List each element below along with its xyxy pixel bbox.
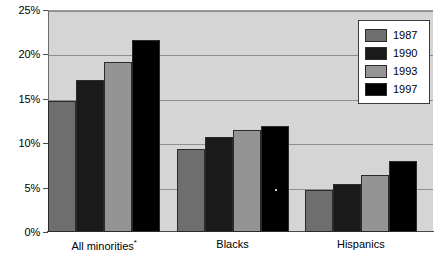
bar [104,62,132,232]
legend-item: 1997 [365,80,424,98]
bar-group [48,10,160,232]
y-axis: 0%5%10%15%20%25% [0,10,40,232]
y-axis-tick-label: 25% [19,4,40,16]
x-axis: All minorities*BlacksHispanics [48,238,433,256]
y-axis-tick-label: 20% [19,48,40,60]
bar [177,149,205,232]
legend-swatch [365,83,387,96]
bar [48,101,76,232]
bar [333,184,361,232]
x-axis-tick-label: Hispanics [337,238,385,250]
bar [233,130,261,232]
legend-swatch [365,65,387,78]
legend-label: 1997 [393,83,417,95]
bar [261,126,289,232]
legend-label: 1987 [393,29,417,41]
y-axis-tick-label: 5% [25,182,41,194]
bar [361,175,389,232]
legend-swatch [365,29,387,42]
bar-chart: 0%5%10%15%20%25% All minorities*BlacksHi… [0,0,442,260]
chart-legend: 1987199019931997 [358,20,430,104]
legend-label: 1993 [393,65,417,77]
legend-item: 1990 [365,44,424,62]
x-axis-tick-label: Blacks [216,238,248,250]
x-axis-tick-label: All minorities* [71,238,136,252]
bar [389,161,417,232]
bar [205,137,233,232]
legend-item: 1993 [365,62,424,80]
y-axis-tick-label: 15% [19,93,40,105]
bar [132,40,160,232]
bar-artifact-speck [275,189,277,191]
y-axis-tick-mark [43,232,48,233]
y-axis-tick-label: 10% [19,137,40,149]
bar [76,80,104,232]
legend-swatch [365,47,387,60]
bar [305,190,333,232]
legend-label: 1990 [393,47,417,59]
bar-group [177,10,289,232]
legend-item: 1987 [365,26,424,44]
y-axis-tick-label: 0% [25,226,41,238]
